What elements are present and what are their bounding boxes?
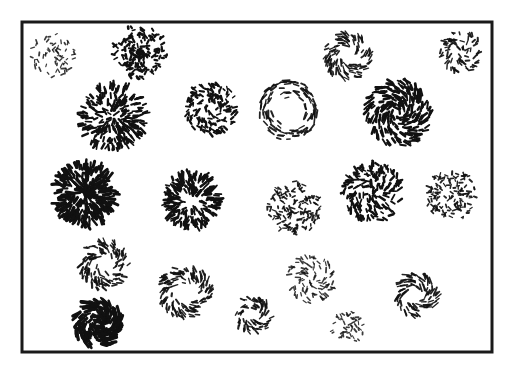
texture-patch: [287, 255, 335, 303]
texture-element: [155, 68, 156, 71]
texture-element: [187, 109, 189, 111]
texture-element: [296, 225, 298, 226]
texture-element: [191, 177, 193, 183]
texture-element: [268, 320, 271, 322]
texture-element: [264, 310, 266, 315]
texture-element: [282, 197, 284, 198]
texture-element: [342, 314, 344, 316]
texture-element: [362, 182, 366, 184]
texture-element: [123, 110, 126, 112]
texture-element: [118, 145, 119, 151]
texture-element: [133, 127, 137, 128]
texture-element: [166, 54, 167, 57]
texture-element: [337, 315, 338, 317]
texture-element: [108, 145, 109, 150]
texture-patch: [267, 181, 321, 234]
texture-element: [369, 198, 370, 202]
texture-element: [301, 293, 302, 296]
texture-element: [68, 68, 72, 70]
texture-element: [367, 173, 368, 175]
texture-element: [299, 201, 301, 202]
texture-element: [192, 185, 193, 191]
texture-element: [243, 319, 244, 322]
texture-element: [294, 84, 299, 86]
texture-element: [350, 334, 351, 337]
texture-element: [310, 213, 313, 214]
texture-element: [299, 98, 303, 101]
texture-element: [108, 113, 111, 115]
texture-element: [323, 282, 326, 284]
texture-element: [147, 40, 149, 44]
texture-element: [332, 332, 334, 333]
texture-element: [137, 44, 138, 48]
texture-element: [367, 97, 372, 98]
texture-element: [354, 329, 356, 332]
texture-element: [72, 58, 75, 59]
texture-element: [278, 195, 281, 196]
texture-element: [102, 143, 105, 148]
texture-element: [270, 316, 274, 318]
texture-element: [472, 40, 475, 42]
texture-patch: [323, 31, 372, 81]
texture-element: [227, 92, 228, 95]
texture-element: [137, 51, 138, 53]
texture-element: [393, 186, 394, 191]
texture-element: [120, 266, 122, 270]
texture-element: [428, 300, 433, 302]
texture-element: [94, 320, 101, 322]
texture-element: [296, 295, 297, 298]
texture-element: [253, 320, 255, 321]
texture-element: [281, 92, 284, 94]
texture-element: [310, 124, 314, 129]
texture-element: [397, 173, 398, 178]
texture-element: [303, 283, 305, 286]
texture-element: [398, 199, 402, 202]
texture-element: [315, 203, 318, 205]
texture-element: [186, 213, 187, 220]
texture-element: [469, 180, 471, 182]
texture-element: [390, 130, 392, 134]
texture-element: [415, 84, 416, 90]
texture-element: [392, 171, 394, 173]
texture-element: [401, 301, 402, 306]
texture-element: [458, 205, 461, 206]
texture-element: [423, 284, 426, 290]
texture-element: [112, 124, 113, 129]
texture-element: [182, 208, 186, 210]
texture-element: [313, 262, 314, 264]
texture-element: [460, 201, 461, 204]
texture-element: [293, 181, 297, 182]
texture-element: [413, 114, 416, 118]
texture-element: [172, 285, 178, 287]
texture-element: [59, 200, 66, 201]
texture-element: [449, 43, 453, 46]
texture-element: [450, 192, 453, 194]
texture-element: [425, 125, 429, 128]
texture-element: [393, 85, 399, 89]
texture-element: [461, 179, 464, 180]
texture-patch: [31, 34, 76, 78]
texture-element: [152, 29, 153, 31]
texture-element: [55, 192, 62, 193]
texture-element: [405, 310, 407, 315]
texture-element: [407, 127, 411, 128]
texture-element: [72, 217, 74, 221]
texture-element: [116, 253, 117, 256]
texture-element: [137, 136, 140, 138]
texture-element: [115, 95, 116, 100]
texture-element: [459, 32, 460, 35]
texture-element: [270, 207, 271, 211]
texture-element: [341, 59, 342, 66]
texture-element: [231, 117, 233, 119]
texture-element: [190, 304, 196, 306]
texture-element: [102, 253, 106, 254]
texture-element: [241, 311, 243, 315]
texture-element: [440, 178, 444, 179]
texture-element: [375, 163, 378, 165]
texture-element: [248, 322, 251, 325]
texture-element: [466, 40, 468, 44]
texture-element: [94, 272, 95, 275]
texture-element: [57, 203, 64, 205]
texture-element: [159, 51, 160, 53]
texture-element: [311, 215, 314, 216]
